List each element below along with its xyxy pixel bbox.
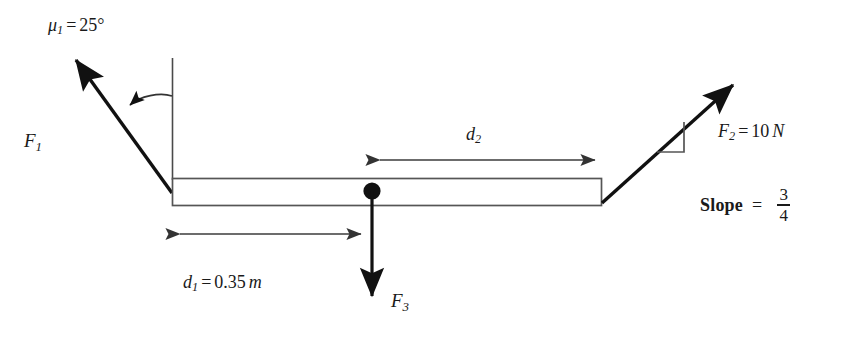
distance2-symbol: d [466, 124, 475, 144]
slope-equals: = [752, 196, 762, 214]
force3-symbol: F [391, 290, 403, 311]
slope-numerator: 3 [777, 186, 790, 204]
distance2-subscript: 2 [475, 132, 481, 146]
distance1-equals: = [198, 272, 214, 292]
force1-label: F1 [24, 131, 42, 150]
angle-label: μ1=25° [48, 16, 105, 34]
force3-subscript: 3 [403, 299, 409, 314]
force3-label: F3 [391, 291, 409, 310]
force2-unit: N [769, 121, 787, 141]
slope-denominator: 4 [777, 206, 790, 224]
diagram-canvas [0, 0, 852, 342]
slope-triangle [657, 122, 684, 152]
distance1-value: 0.35 [214, 272, 246, 292]
angle-symbol: μ [48, 15, 57, 35]
force2-label: F2=10N [718, 122, 787, 140]
distance2-label: d2 [466, 125, 481, 143]
angle-arc [130, 94, 172, 105]
slope-word: Slope [700, 196, 743, 214]
angle-value: 25° [79, 15, 104, 35]
beam [173, 179, 602, 206]
force-diagram: μ1=25° F1 d2 d1=0.35m F3 F2=10N Slope = … [0, 0, 852, 342]
force1-subscript: 1 [36, 139, 42, 154]
slope-fraction: 3 4 [777, 186, 790, 224]
slope-label: Slope = 3 4 [700, 186, 790, 224]
force1-symbol: F [24, 130, 36, 151]
force2-value: 10 [751, 121, 769, 141]
distance1-label: d1=0.35m [183, 273, 265, 291]
force2-equals: = [735, 121, 751, 141]
force1-arrow [76, 60, 172, 193]
distance1-unit: m [246, 272, 265, 292]
force2-symbol: F [718, 121, 729, 141]
angle-equals: = [63, 15, 79, 35]
distance1-symbol: d [183, 272, 192, 292]
